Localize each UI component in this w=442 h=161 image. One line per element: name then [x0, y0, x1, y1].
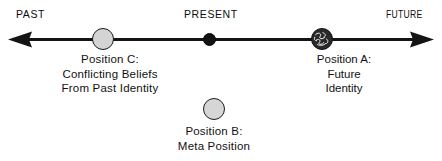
position-c-marker[interactable]: [92, 28, 114, 50]
position-c-line1: Conflicting Beliefs: [40, 67, 180, 82]
diagram-canvas: PAST PRESENT FUTURE Position C: Conflict…: [0, 0, 442, 161]
arrow-left-icon: [8, 32, 32, 48]
position-b-line1: Meta Position: [152, 139, 276, 154]
axis-label-past: PAST: [16, 8, 45, 20]
position-a-line1: Future: [296, 67, 392, 82]
scribble-texture-icon: [312, 29, 332, 49]
position-c-heading: Position C:: [40, 52, 180, 67]
axis-label-present: PRESENT: [184, 8, 238, 20]
position-a-heading: Position A:: [296, 52, 392, 67]
position-b-marker[interactable]: [203, 98, 225, 120]
position-a-line2: Identity: [296, 81, 392, 96]
position-c-line2: From Past Identity: [40, 81, 180, 96]
position-c-caption: Position C: Conflicting Beliefs From Pas…: [40, 52, 180, 96]
arrow-right-icon: [410, 32, 434, 48]
position-a-marker[interactable]: [311, 28, 333, 50]
axis-label-future: FUTURE: [386, 8, 422, 20]
position-a-caption: Position A: Future Identity: [296, 52, 392, 96]
position-b-heading: Position B:: [152, 124, 276, 139]
position-b-caption: Position B: Meta Position: [152, 124, 276, 153]
present-marker[interactable]: [203, 33, 216, 46]
